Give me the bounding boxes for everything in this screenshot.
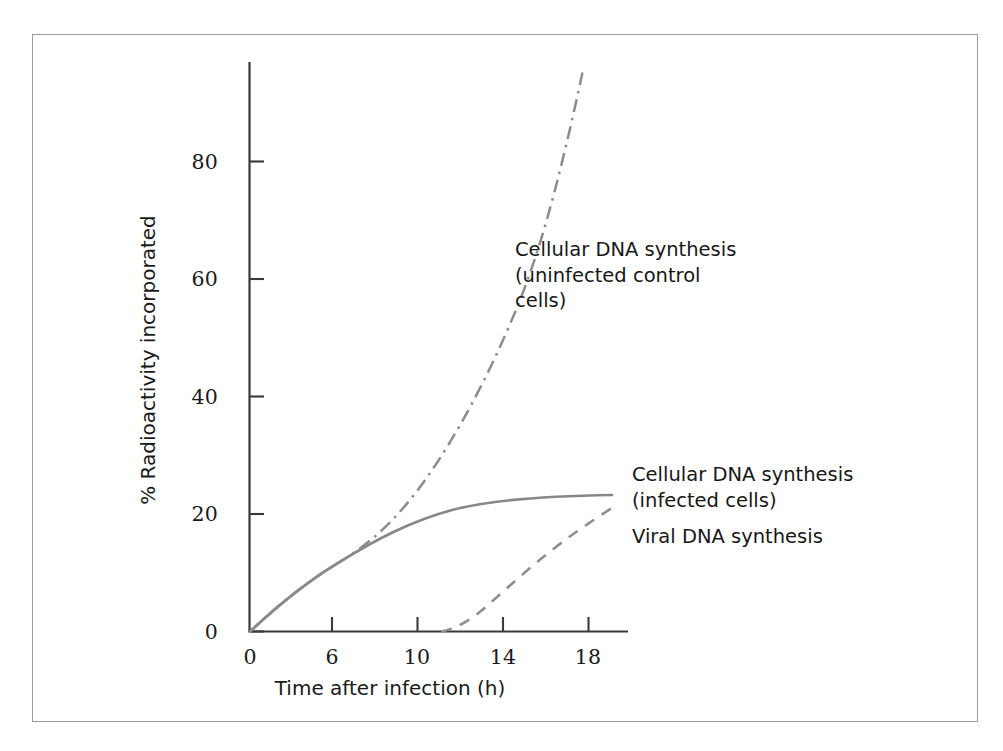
series-cellular-dna-infected: [250, 495, 612, 632]
series-label-cellular-dna-uninfected-control: Cellular DNA synthesis (uninfected contr…: [515, 237, 736, 314]
axis-lines: [248, 62, 628, 632]
y-tick-label-60: 60: [168, 267, 218, 291]
figure-canvas: 0 20 40 60 80 0 6 10 14 18 Time after in…: [0, 0, 1003, 751]
x-tick-label-14: 14: [483, 645, 523, 669]
y-tick-label-0: 0: [168, 620, 218, 644]
series-label-cellular-dna-infected: Cellular DNA synthesis (infected cells): [632, 462, 853, 513]
series-label-viral-dna-synthesis: Viral DNA synthesis: [632, 524, 823, 550]
y-tick-label-20: 20: [168, 502, 218, 526]
y-axis-ticks: [250, 162, 265, 632]
series-viral-dna-synthesis: [441, 504, 618, 632]
y-tick-label-80: 80: [168, 150, 218, 174]
x-axis-title: Time after infection (h): [0, 676, 780, 700]
series-cellular-dna-uninfected-control: [250, 70, 583, 632]
x-tick-label-18: 18: [568, 645, 608, 669]
x-tick-label-6: 6: [312, 645, 352, 669]
x-tick-label-0: 0: [230, 645, 270, 669]
y-axis-title: % Radioactivity incorporated: [136, 215, 160, 505]
y-tick-label-40: 40: [168, 385, 218, 409]
x-tick-label-10: 10: [397, 645, 437, 669]
